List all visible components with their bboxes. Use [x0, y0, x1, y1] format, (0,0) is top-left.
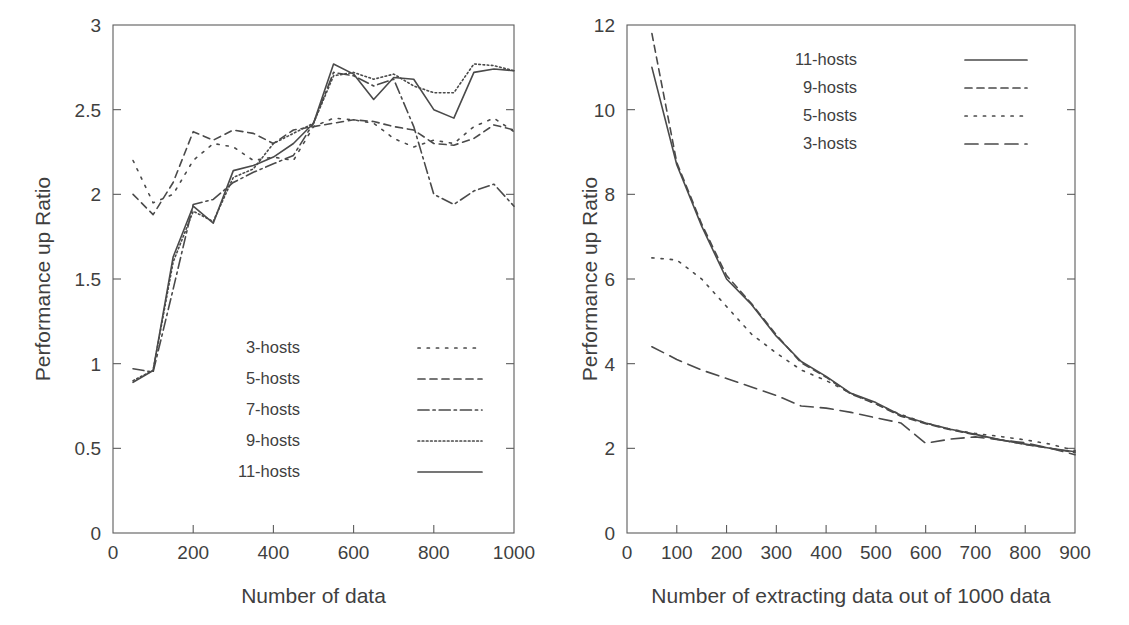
- x-tick-label: 300: [760, 542, 792, 563]
- legend-label-5-hosts: 5-hosts: [246, 369, 300, 387]
- y-tick-label: 6: [604, 269, 615, 290]
- x-axis-title: Number of data: [241, 584, 386, 607]
- y-tick-label: 2: [90, 184, 101, 205]
- y-tick-label: 0: [90, 523, 101, 544]
- y-tick-label: 10: [594, 100, 615, 121]
- y-tick-label: 4: [604, 354, 615, 375]
- figure-container: 0200400600800100000.511.522.53Number of …: [0, 0, 1129, 625]
- x-tick-label: 800: [418, 542, 450, 563]
- series-line-11-hosts: [133, 64, 514, 382]
- x-tick-label: 200: [711, 542, 743, 563]
- plot-frame: [113, 25, 514, 533]
- x-axis-title: Number of extracting data out of 1000 da…: [651, 584, 1051, 607]
- x-tick-label: 600: [338, 542, 370, 563]
- chart-panel-right: 0100200300400500600700800900024681012Num…: [565, 0, 1129, 625]
- series-line-3-hosts: [133, 118, 514, 203]
- legend-label-11-hosts: 11-hosts: [238, 462, 300, 480]
- series-line-7-hosts: [133, 72, 514, 372]
- line-chart-number-of-data: 0200400600800100000.511.522.53Number of …: [0, 0, 565, 625]
- y-tick-label: 2.5: [75, 100, 101, 121]
- plot-frame: [627, 25, 1075, 533]
- chart-panel-left: 0200400600800100000.511.522.53Number of …: [0, 0, 565, 625]
- y-tick-label: 1.5: [75, 269, 101, 290]
- x-tick-label: 500: [860, 542, 892, 563]
- legend-label-9-hosts: 9-hosts: [803, 78, 857, 96]
- x-tick-label: 100: [661, 542, 693, 563]
- y-tick-label: 3: [90, 15, 101, 36]
- legend-label-3-hosts: 3-hosts: [803, 134, 857, 152]
- legend-label-7-hosts: 7-hosts: [246, 400, 300, 418]
- x-tick-label: 1000: [493, 542, 535, 563]
- y-tick-label: 0: [604, 523, 615, 544]
- y-tick-label: 8: [604, 184, 615, 205]
- legend-label-9-hosts: 9-hosts: [246, 431, 300, 449]
- y-tick-label: 0.5: [75, 438, 101, 459]
- legend-label-5-hosts: 5-hosts: [803, 106, 857, 124]
- x-tick-label: 400: [258, 542, 290, 563]
- y-tick-label: 1: [90, 354, 101, 375]
- series-line-5-hosts: [133, 120, 514, 215]
- series-line-11-hosts: [652, 67, 1075, 451]
- x-tick-label: 800: [1009, 542, 1041, 563]
- series-line-9-hosts: [652, 33, 1075, 452]
- line-chart-number-of-extracting-data: 0100200300400500600700800900024681012Num…: [565, 0, 1129, 625]
- legend-label-3-hosts: 3-hosts: [246, 338, 300, 356]
- y-axis-title: Performance up Ratio: [578, 177, 601, 381]
- x-tick-label: 0: [108, 542, 119, 563]
- x-tick-label: 0: [622, 542, 633, 563]
- x-tick-label: 200: [177, 542, 209, 563]
- y-tick-label: 12: [594, 15, 615, 36]
- x-tick-label: 900: [1059, 542, 1091, 563]
- series-line-5-hosts: [652, 258, 1075, 451]
- x-tick-label: 400: [810, 542, 842, 563]
- y-axis-title: Performance up Ratio: [31, 177, 54, 381]
- legend-label-11-hosts: 11-hosts: [795, 50, 857, 68]
- x-tick-label: 600: [910, 542, 942, 563]
- y-tick-label: 2: [604, 438, 615, 459]
- x-tick-label: 700: [960, 542, 992, 563]
